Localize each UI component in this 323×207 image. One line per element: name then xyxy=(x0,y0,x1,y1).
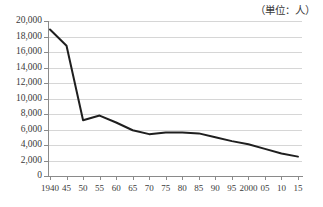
y-axis-tick-label: 20,000 xyxy=(16,16,42,26)
y-axis-tick-label: 14,000 xyxy=(16,63,42,73)
x-axis-tick-label: 45 xyxy=(62,184,71,193)
x-axis-tick-label: 65 xyxy=(128,184,137,193)
x-axis-tick xyxy=(83,176,84,180)
plot-area xyxy=(48,21,302,176)
y-axis-tick-label: 10,000 xyxy=(16,94,42,104)
x-axis-tick xyxy=(166,176,167,180)
x-axis-tick-label: 75 xyxy=(161,184,170,193)
y-axis-tick-label: 0 xyxy=(37,171,42,181)
x-axis-tick-label: 10 xyxy=(277,184,286,193)
x-axis-tick-label: 80 xyxy=(178,184,187,193)
y-axis-tick-label: 8,000 xyxy=(21,109,42,119)
x-axis-tick xyxy=(248,176,249,180)
x-axis-tick xyxy=(67,176,68,180)
x-axis-tick-label: 50 xyxy=(79,184,88,193)
y-axis-tick-label: 18,000 xyxy=(16,32,42,42)
x-axis-tick-label: 1940 xyxy=(41,184,59,193)
x-axis-tick-label: 95 xyxy=(227,184,236,193)
x-axis-tick xyxy=(100,176,101,180)
x-axis-tick xyxy=(199,176,200,180)
x-axis-tick-label: 90 xyxy=(211,184,220,193)
x-axis-tick-label: 05 xyxy=(260,184,269,193)
x-axis-tick-label: 60 xyxy=(112,184,121,193)
x-axis-tick-label: 2000 xyxy=(239,184,257,193)
y-axis-tick-label: 6,000 xyxy=(21,125,42,135)
x-axis-tick xyxy=(182,176,183,180)
x-axis-tick-label: 70 xyxy=(145,184,154,193)
x-axis-tick xyxy=(281,176,282,180)
x-axis-tick xyxy=(116,176,117,180)
x-axis-tick xyxy=(149,176,150,180)
y-axis-tick-label: 4,000 xyxy=(21,140,42,150)
y-axis-tick-label: 2,000 xyxy=(21,156,42,166)
x-axis-tick xyxy=(215,176,216,180)
x-axis-tick xyxy=(232,176,233,180)
x-axis-tick xyxy=(133,176,134,180)
x-axis-tick xyxy=(265,176,266,180)
x-axis-tick-label: 15 xyxy=(294,184,303,193)
x-axis-tick xyxy=(50,176,51,180)
series-line xyxy=(48,21,302,176)
line-chart: （単位：人） 20,00018,00016,00014,00012,00010,… xyxy=(0,0,323,207)
x-axis-tick xyxy=(298,176,299,180)
y-axis-tick-label: 16,000 xyxy=(16,47,42,57)
y-axis-tick-label: 12,000 xyxy=(16,78,42,88)
x-axis-tick-label: 55 xyxy=(95,184,104,193)
chart-unit-caption: （単位：人） xyxy=(255,2,315,17)
x-axis-tick-label: 85 xyxy=(194,184,203,193)
